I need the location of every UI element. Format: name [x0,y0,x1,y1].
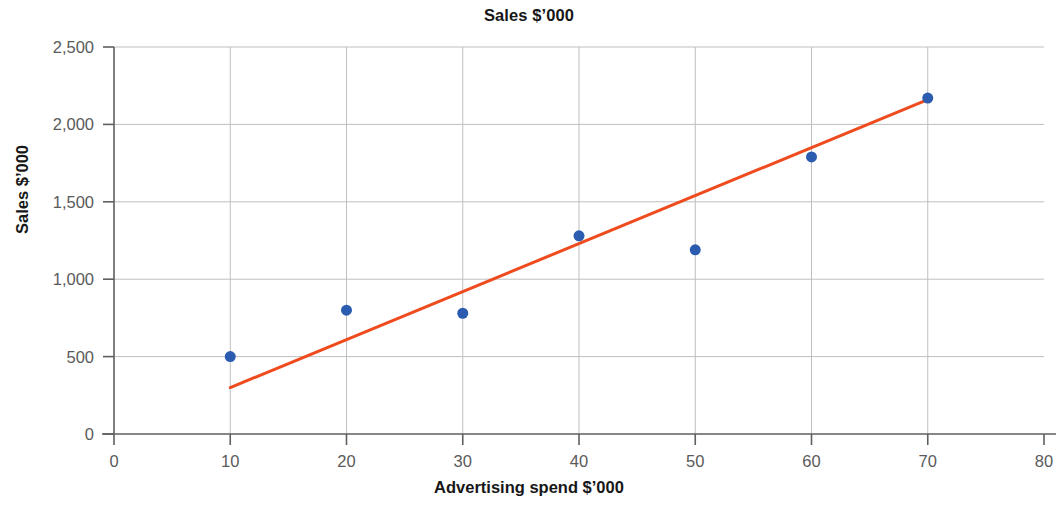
data-point-marker [922,93,933,104]
data-point-marker [225,351,236,362]
data-point-marker [574,230,585,241]
y-tick-label: 500 [66,348,94,366]
y-tick-label: 2,500 [53,38,94,56]
data-point-marker [690,244,701,255]
x-tick-marks [114,434,1044,445]
x-tick-label: 10 [221,452,239,470]
x-tick-label: 50 [686,452,704,470]
y-tick-label: 2,000 [53,115,94,133]
data-point-marker [806,151,817,162]
y-tick-label: 1,000 [53,270,94,288]
y-tick-label: 1,500 [53,193,94,211]
x-tick-labels: 01020304050607080 [109,452,1053,470]
y-tick-labels: 05001,0001,5002,0002,500 [53,38,94,443]
x-tick-label: 30 [454,452,472,470]
y-tick-marks [103,47,114,434]
x-tick-label: 20 [337,452,355,470]
x-tick-label: 60 [802,452,820,470]
data-point-marker [457,308,468,319]
x-tick-label: 70 [919,452,937,470]
x-tick-label: 80 [1035,452,1053,470]
chart-figure: Sales $’000 Sales $’000 Advertising spen… [0,0,1058,505]
y-tick-label: 0 [85,425,94,443]
x-tick-label: 40 [570,452,588,470]
data-point-marker [341,305,352,316]
x-tick-label: 0 [109,452,118,470]
plot-area: 05001,0001,5002,0002,500 010203040506070… [0,0,1058,505]
